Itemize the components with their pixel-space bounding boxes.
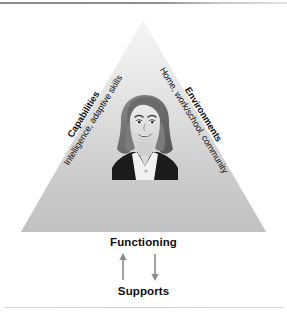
arrow-pair [0,253,287,283]
arrow-up-icon [117,253,129,281]
portrait-svg [110,92,180,180]
supports-label: Supports [0,285,287,297]
functioning-label: Functioning [0,236,287,248]
arrow-down-icon [149,253,161,281]
functioning-supports-block: Functioning Supports [0,236,287,297]
bottom-divider-rule [4,307,283,308]
figure-canvas: Capabilities Intelligence, adaptive skil… [0,0,287,315]
person-portrait-illustration [110,92,180,180]
